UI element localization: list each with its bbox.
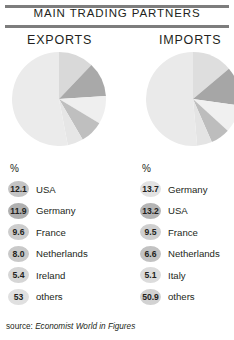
value-badge: 5.1 bbox=[140, 267, 161, 283]
list-item: 13.7Germany bbox=[140, 181, 220, 197]
list-item: 11.9Germany bbox=[8, 203, 88, 219]
partner-name: France bbox=[168, 227, 198, 238]
value-badge: 9.5 bbox=[140, 224, 161, 240]
source-note: source: Economist World in Figures bbox=[6, 322, 135, 331]
list-item: 50.9others bbox=[140, 289, 220, 305]
partner-name: others bbox=[168, 291, 195, 302]
pie-chart-exports bbox=[12, 52, 106, 146]
page-title: MAIN TRADING PARTNERS bbox=[0, 7, 234, 19]
partner-name: Ireland bbox=[36, 270, 65, 281]
column-heading-imports: IMPORTS bbox=[159, 33, 221, 47]
partner-name: Germany bbox=[36, 205, 75, 216]
pie-imports-svg bbox=[146, 52, 234, 146]
header-rule-bottom bbox=[5, 25, 229, 28]
value-badge: 53 bbox=[8, 289, 29, 305]
value-badge: 12.1 bbox=[8, 181, 29, 197]
partner-name: Italy bbox=[168, 270, 186, 281]
data-list-imports: % 13.7Germany13.2USA9.5France6.6Netherla… bbox=[140, 163, 220, 310]
list-item: 9.5France bbox=[140, 224, 220, 240]
value-badge: 11.9 bbox=[8, 203, 29, 219]
list-item: 53others bbox=[8, 289, 88, 305]
unit-label-exports: % bbox=[10, 163, 88, 174]
column-heading-exports: EXPORTS bbox=[27, 33, 92, 47]
partner-name: France bbox=[36, 227, 66, 238]
value-badge: 13.2 bbox=[140, 203, 161, 219]
rows-imports: 13.7Germany13.2USA9.5France6.6Netherland… bbox=[140, 181, 220, 305]
list-item: 5.1Italy bbox=[140, 267, 220, 283]
data-list-exports: % 12.1USA11.9Germany9.6France8.0Netherla… bbox=[8, 163, 88, 310]
value-badge: 8.0 bbox=[8, 246, 29, 262]
list-item: 12.1USA bbox=[8, 181, 88, 197]
partner-name: Netherlands bbox=[36, 248, 88, 259]
unit-label-imports: % bbox=[142, 163, 220, 174]
partner-name: others bbox=[36, 291, 63, 302]
list-item: 5.4Ireland bbox=[8, 267, 88, 283]
pie-slice bbox=[146, 52, 197, 146]
source-publication: Economist World in Figures bbox=[35, 322, 135, 331]
source-label: source: bbox=[6, 322, 33, 331]
pie-exports-svg bbox=[12, 52, 106, 146]
value-badge: 5.4 bbox=[8, 267, 29, 283]
value-badge: 6.6 bbox=[140, 246, 161, 262]
partner-name: Germany bbox=[168, 184, 207, 195]
list-item: 13.2USA bbox=[140, 203, 220, 219]
partner-name: USA bbox=[36, 184, 56, 195]
partner-name: USA bbox=[168, 205, 188, 216]
list-item: 8.0Netherlands bbox=[8, 246, 88, 262]
value-badge: 13.7 bbox=[140, 181, 161, 197]
partner-name: Netherlands bbox=[168, 248, 220, 259]
list-item: 6.6Netherlands bbox=[140, 246, 220, 262]
pie-chart-imports bbox=[146, 52, 234, 152]
infographic-panel: MAIN TRADING PARTNERS EXPORTS IMPORTS % … bbox=[0, 0, 234, 340]
rows-exports: 12.1USA11.9Germany9.6France8.0Netherland… bbox=[8, 181, 88, 305]
list-item: 9.6France bbox=[8, 224, 88, 240]
value-badge: 50.9 bbox=[140, 289, 161, 305]
value-badge: 9.6 bbox=[8, 224, 29, 240]
